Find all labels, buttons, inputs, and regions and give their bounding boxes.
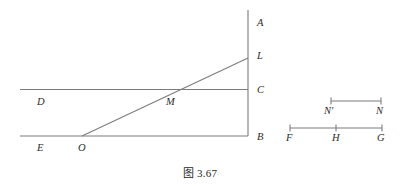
point-label-f: F <box>286 133 292 144</box>
figure-caption: 图 3.67 <box>0 164 400 180</box>
figure-drawing-canvas <box>0 0 400 186</box>
point-label-n: N <box>376 106 383 117</box>
point-label-o: O <box>78 143 86 154</box>
point-label-l: L <box>257 51 263 62</box>
geometry-figure: A L C B D E O M N' N F H G 图 3.67 <box>0 0 400 186</box>
point-label-a: A <box>257 18 263 29</box>
point-label-c: C <box>257 85 264 96</box>
diagonal-line-OL <box>82 58 248 136</box>
point-label-n-prime: N' <box>324 106 333 117</box>
point-label-d: D <box>37 97 45 108</box>
point-label-e: E <box>37 143 43 154</box>
point-label-m: M <box>166 97 175 108</box>
point-label-h: H <box>332 133 340 144</box>
point-label-b: B <box>257 132 263 143</box>
point-label-g: G <box>377 133 385 144</box>
